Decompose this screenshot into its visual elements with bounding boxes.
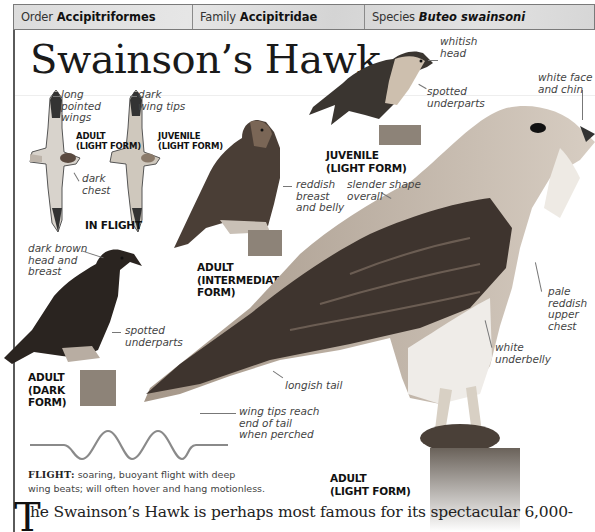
- flight-label: FLIGHT:: [28, 469, 75, 480]
- leader-line: [428, 60, 438, 61]
- annotation-dark-brown-head: dark brown head and breast: [28, 243, 87, 278]
- flight-description: FLIGHT: soaring, buoyant flight with dee…: [28, 468, 308, 496]
- flight-pattern-wave-icon: [28, 425, 228, 465]
- family-label: Family: [200, 10, 236, 24]
- leader-line: [130, 96, 137, 97]
- leader-line: [112, 332, 121, 333]
- caption-adult-light: ADULT (LIGHT FORM): [330, 472, 411, 497]
- annotation-wing-tips-reach: wing tips reach end of tail when perched: [239, 406, 319, 441]
- body-paragraph: he Swainson’s Hawk is perhaps most famou…: [30, 503, 573, 521]
- species-value: Buteo swainsoni: [419, 10, 525, 24]
- annotation-long-pointed-wings: long pointed wings: [61, 89, 101, 124]
- taxonomy-species: Species Buteo swainsoni: [365, 5, 594, 29]
- annotation-whitish-head: whitish head: [440, 36, 477, 59]
- annotation-white-face: white face and chin: [538, 72, 592, 95]
- annotation-dark-chest: dark chest: [82, 173, 110, 196]
- adult-light-main-illustration: [140, 98, 595, 532]
- annotation-longish-tail: longish tail: [285, 380, 342, 392]
- annotation-slender-shape: slender shape overall: [347, 179, 421, 202]
- order-value: Accipitriformes: [57, 10, 156, 24]
- taxonomy-family: Family Accipitridae: [193, 5, 365, 29]
- leader-line: [200, 413, 236, 414]
- taxonomy-bar: Order Accipitriformes Family Accipitrida…: [13, 4, 595, 30]
- annotation-pale-reddish-upper-chest: pale reddish upper chest: [548, 286, 587, 332]
- caption-flight-adult-light: ADULT (LIGHT FORM): [76, 131, 141, 151]
- taxonomy-order: Order Accipitriformes: [14, 5, 193, 29]
- annotation-white-underbelly: white underbelly: [495, 342, 551, 365]
- family-value: Accipitridae: [240, 10, 318, 24]
- species-label: Species: [372, 10, 415, 24]
- flight-text-line2: wing beats; will often hover and hang mo…: [28, 483, 265, 494]
- caption-in-flight: IN FLIGHT: [85, 219, 142, 232]
- caption-adult-dark: ADULT (DARK FORM): [28, 371, 66, 409]
- leader-line: [53, 96, 60, 97]
- order-label: Order: [21, 10, 53, 24]
- flight-text-line1: soaring, buoyant flight with deep: [78, 469, 236, 480]
